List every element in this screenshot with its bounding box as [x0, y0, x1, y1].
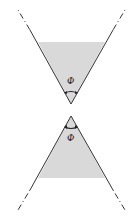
top-cone-fill [38, 42, 105, 104]
top-right-dashed-extension [113, 10, 125, 30]
top-angle-label: Φ [67, 77, 74, 86]
bottom-left-dashed-extension [18, 190, 30, 210]
top-left-dashed-extension [18, 10, 30, 30]
bottom-angle-label: Φ [67, 134, 74, 143]
bottom-cone-fill [38, 116, 105, 178]
bottom-right-dashed-extension [113, 190, 125, 210]
double-cone-diagram [0, 0, 133, 220]
